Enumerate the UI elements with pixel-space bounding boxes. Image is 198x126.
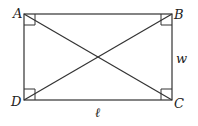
rectangle-diagram: A B C D w ℓ	[0, 0, 198, 126]
vertex-label-c: C	[174, 96, 184, 111]
length-label: ℓ	[95, 105, 101, 120]
vertex-label-b: B	[173, 7, 184, 22]
vertex-label-d: D	[10, 94, 22, 109]
vertex-label-a: A	[12, 6, 22, 21]
width-label: w	[176, 51, 187, 66]
